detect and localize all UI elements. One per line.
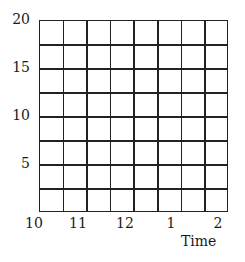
x-tick-label: 1 [156,215,186,231]
y-tick-label: 15 [2,59,30,75]
x-tick-label: 11 [63,215,93,231]
grid-hline [40,68,227,70]
y-tick-label: 5 [2,155,30,171]
grid-hline [40,44,227,46]
grid-hline [40,116,227,118]
x-tick-label: 10 [19,215,49,231]
y-tick-label: 20 [2,11,30,27]
grid-hline [40,92,227,94]
y-tick-label: 10 [2,107,30,123]
x-tick-label: 2 [203,215,233,231]
grid-hline [40,164,227,166]
x-tick-label: 12 [110,215,140,231]
plot-grid [39,20,228,212]
x-axis-label: Time [181,233,216,249]
grid-hline [40,188,227,190]
grid-hline [40,140,227,142]
